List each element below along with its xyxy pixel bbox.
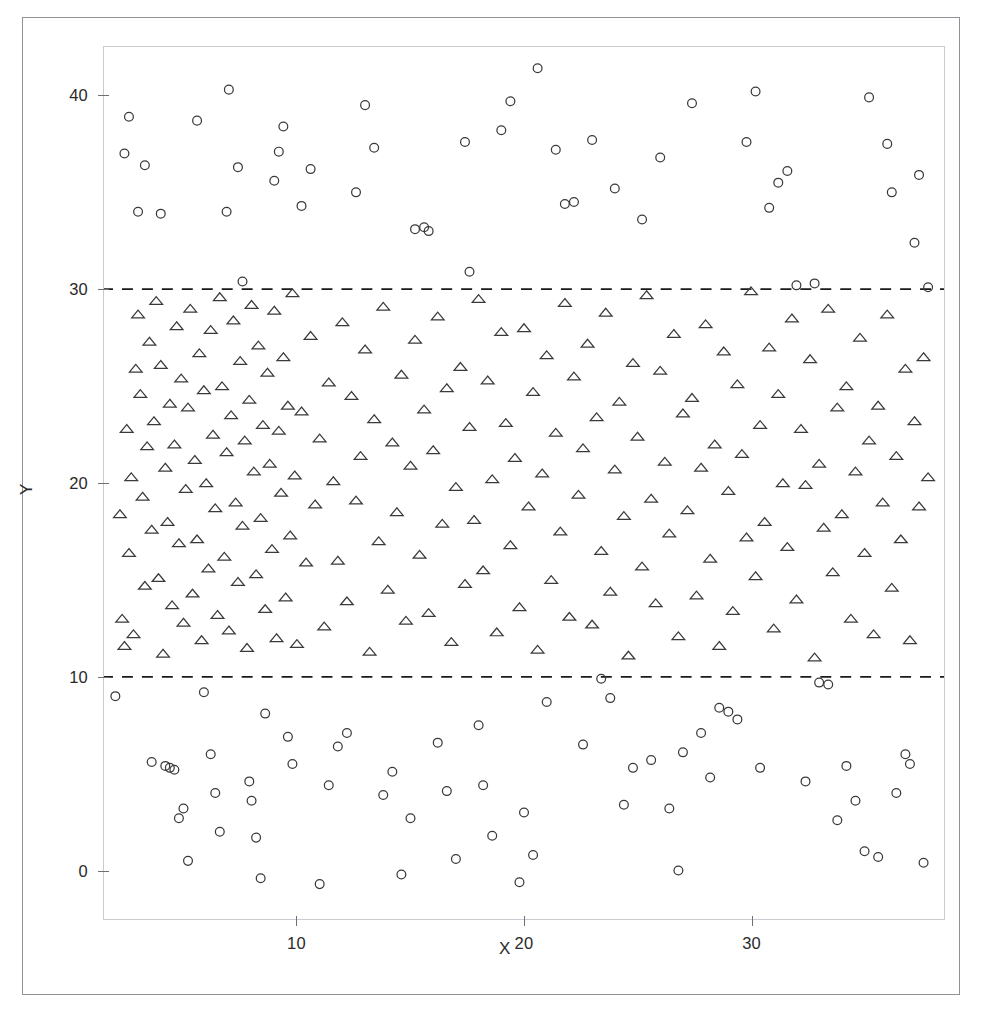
data-point <box>688 99 697 108</box>
x-tick-label: 10 <box>287 934 306 953</box>
data-point <box>572 490 585 498</box>
data-point <box>631 432 644 440</box>
data-point <box>125 112 134 121</box>
data-point <box>397 870 406 879</box>
data-point <box>377 302 390 310</box>
data-point <box>152 574 165 582</box>
data-point <box>883 139 892 148</box>
data-point <box>708 440 721 448</box>
data-point <box>620 800 629 809</box>
data-point <box>275 488 288 496</box>
data-point <box>266 545 279 553</box>
data-point <box>118 642 131 650</box>
data-point <box>890 452 903 460</box>
data-point <box>549 428 562 436</box>
data-point <box>597 674 606 683</box>
data-point <box>542 698 551 707</box>
data-point <box>715 703 724 712</box>
data-point <box>450 483 463 491</box>
data-point <box>370 143 379 152</box>
data-point <box>243 395 256 403</box>
data-point <box>906 760 915 769</box>
data-point <box>381 585 394 593</box>
data-point <box>291 640 304 648</box>
data-point <box>400 616 413 624</box>
data-point <box>490 628 503 636</box>
y-tick-label: 40 <box>33 85 88 104</box>
data-point <box>842 762 851 771</box>
data-point <box>300 558 313 566</box>
data-point <box>840 382 853 390</box>
data-point <box>125 473 138 481</box>
data-point <box>390 508 403 516</box>
y-tick-label: 10 <box>33 668 88 687</box>
data-point <box>120 425 133 433</box>
data-point <box>463 423 476 431</box>
data-point <box>527 388 540 396</box>
data-point <box>207 430 220 438</box>
data-point <box>751 87 760 96</box>
data-point <box>783 167 792 176</box>
data-point <box>717 347 730 355</box>
data-point <box>215 827 224 836</box>
data-point <box>845 614 858 622</box>
x-axis-label: X <box>499 939 510 959</box>
data-point <box>368 415 381 423</box>
data-point <box>529 851 538 860</box>
data-point <box>742 138 751 147</box>
data-point <box>690 591 703 599</box>
data-point <box>499 419 512 427</box>
data-point <box>261 368 274 376</box>
data-point <box>915 171 924 180</box>
data-point <box>667 330 680 338</box>
data-point <box>579 740 588 749</box>
data-point <box>206 750 215 759</box>
data-point <box>222 207 231 216</box>
data-point <box>881 310 894 318</box>
data-point <box>345 392 358 400</box>
data-point <box>272 426 285 434</box>
data-point <box>613 397 626 405</box>
data-point <box>595 547 608 555</box>
data-point <box>322 378 335 386</box>
data-point <box>795 425 808 433</box>
data-point <box>833 816 842 825</box>
data-point <box>288 760 297 769</box>
data-point <box>608 465 621 473</box>
data-point <box>577 444 590 452</box>
data-point <box>754 421 767 429</box>
data-point <box>224 85 233 94</box>
data-point <box>159 463 172 471</box>
data-point <box>259 605 272 613</box>
data-point <box>722 487 735 495</box>
y-tick-mark <box>98 289 109 290</box>
data-point <box>610 184 619 193</box>
data-point <box>474 721 483 730</box>
data-point <box>479 781 488 790</box>
x-tick-mark <box>752 916 753 926</box>
data-point <box>309 500 322 508</box>
data-point <box>663 529 676 537</box>
data-point <box>695 463 708 471</box>
data-point <box>699 320 712 328</box>
data-point <box>808 653 821 661</box>
data-point <box>588 136 597 145</box>
data-point <box>740 533 753 541</box>
data-point <box>177 618 190 626</box>
data-point <box>604 587 617 595</box>
data-point <box>854 333 867 341</box>
data-point <box>138 581 151 589</box>
data-point <box>758 518 771 526</box>
data-point <box>363 647 376 655</box>
data-point <box>518 324 531 332</box>
data-point <box>161 518 174 526</box>
data-point <box>222 626 235 634</box>
y-tick-mark <box>98 483 109 484</box>
y-axis-label: Y <box>17 484 37 495</box>
data-point <box>506 97 515 106</box>
data-point <box>440 384 453 392</box>
data-point <box>245 777 254 786</box>
data-point <box>263 459 276 467</box>
data-point <box>863 436 876 444</box>
plot-canvas <box>104 47 944 919</box>
